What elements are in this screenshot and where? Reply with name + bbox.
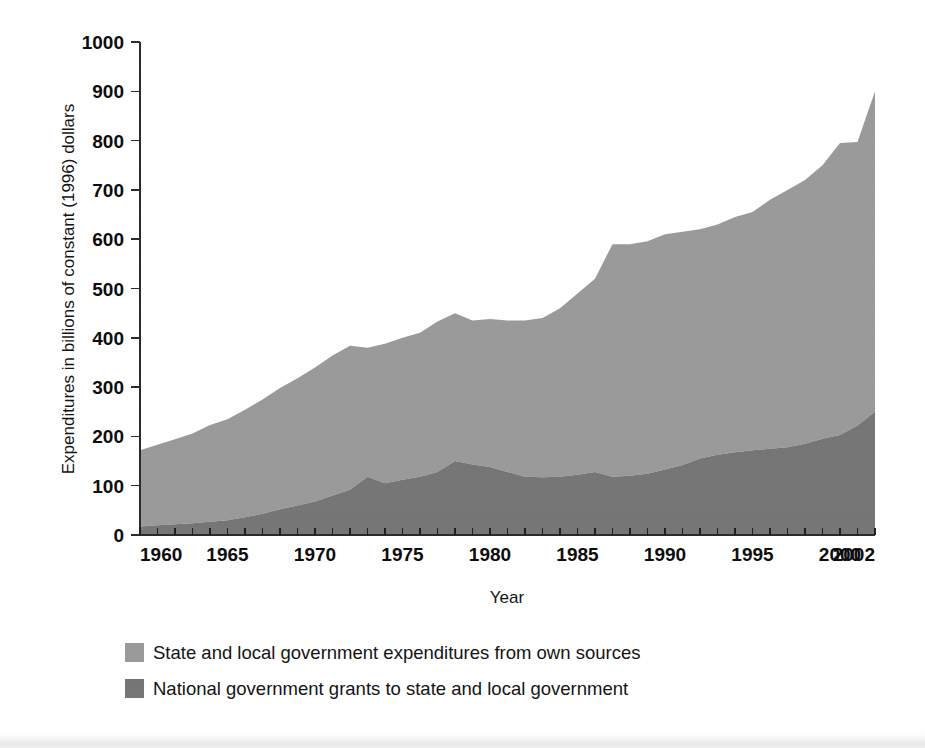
x-tick-label: 2002	[833, 544, 875, 565]
legend-label-state-local: State and local government expenditures …	[153, 642, 640, 663]
y-tick-label: 200	[92, 426, 124, 447]
y-axis-title: Expenditures in billions of constant (19…	[59, 104, 78, 474]
legend-swatch-state-local	[125, 643, 144, 662]
page-edge-band	[0, 734, 925, 748]
x-tick-label: 1985	[556, 544, 599, 565]
x-tick-label: 1965	[206, 544, 249, 565]
x-tick-label: 1990	[644, 544, 686, 565]
x-tick-label: 1975	[381, 544, 424, 565]
y-tick-label: 100	[92, 476, 124, 497]
y-tick-label: 300	[92, 377, 124, 398]
area-chart: 01002003004005006007008009001000 1960196…	[0, 0, 925, 748]
y-tick-label: 800	[92, 131, 124, 152]
y-tick-label: 600	[92, 229, 124, 250]
y-tick-label: 500	[92, 279, 124, 300]
y-tick-label: 0	[113, 525, 124, 546]
legend-swatch-national-grants	[125, 679, 144, 698]
x-tick-label: 1970	[294, 544, 336, 565]
y-tick-label: 900	[92, 81, 124, 102]
x-tick-label: 1995	[731, 544, 774, 565]
figure-container: 01002003004005006007008009001000 1960196…	[0, 0, 925, 748]
legend-label-national-grants: National government grants to state and …	[153, 678, 628, 699]
y-tick-label: 1000	[82, 32, 124, 53]
y-tick-label: 400	[92, 328, 124, 349]
x-tick-label: 1960	[140, 544, 182, 565]
y-axis-ticks: 01002003004005006007008009001000	[82, 32, 140, 546]
y-tick-label: 700	[92, 180, 124, 201]
chart-legend: State and local government expenditures …	[125, 642, 640, 699]
x-axis-title: Year	[490, 588, 525, 607]
x-tick-label: 1980	[469, 544, 511, 565]
